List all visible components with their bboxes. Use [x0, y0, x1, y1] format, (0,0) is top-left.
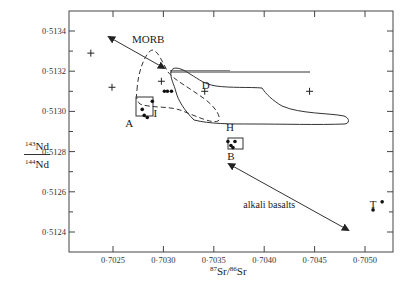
annotation-h: H — [226, 121, 234, 133]
annotation-alkali-basalts: alkali basalts — [243, 199, 295, 210]
annotation-morb: MORB — [132, 33, 164, 45]
x-tick-label: 0·7025 — [101, 255, 125, 265]
dot-marker — [151, 100, 155, 104]
y-axis-label: 143Nd 144Nd — [24, 138, 50, 171]
annotation-i: I — [154, 107, 158, 119]
y-num-superscript: 143 — [25, 140, 36, 148]
y-tick-label: 0·5126 — [42, 187, 66, 197]
x-tick-label: 0·7040 — [252, 255, 276, 265]
y-num-text: Nd — [36, 140, 49, 152]
y-tick-label: 0·5130 — [42, 106, 66, 116]
cross-marker — [108, 84, 115, 91]
x-tick-label: 0·7030 — [151, 255, 175, 265]
axis-ticks: 0·70250·70300·70350·70400·70450·70500·51… — [42, 11, 393, 265]
box-B — [228, 138, 243, 149]
dot-marker — [142, 114, 146, 118]
y-den-text: Nd — [36, 158, 49, 170]
annotation-b: B — [227, 150, 234, 162]
x-axis-label: 87Sr/86Sr — [210, 265, 247, 277]
annotation-a: A — [125, 117, 133, 129]
x-text-1: Sr/ — [217, 265, 230, 277]
annotation-t: T — [370, 198, 377, 210]
y-tick-label: 0·5134 — [42, 26, 67, 36]
x-sup-1: 87 — [210, 265, 217, 273]
y-den-superscript: 144 — [25, 158, 36, 166]
x-sup-2: 86 — [230, 265, 237, 273]
dot-marker — [233, 140, 237, 144]
alkali-basalts-arrow — [229, 164, 348, 230]
x-tick-label: 0·7035 — [202, 255, 226, 265]
box-A — [136, 97, 153, 116]
cross-marker — [87, 50, 94, 57]
solid-field — [171, 68, 349, 124]
y-tick-label: 0·5124 — [42, 227, 67, 237]
field-outlines — [136, 50, 348, 124]
annotation-d: D — [202, 79, 210, 91]
y-tick-label: 0·5132 — [42, 66, 66, 76]
data-points — [87, 50, 384, 212]
dot-marker — [166, 90, 170, 94]
dot-marker — [226, 140, 230, 144]
dot-marker — [170, 90, 174, 94]
annotations: MORBalkali basaltsDIAHBT — [125, 33, 377, 210]
cross-marker — [158, 78, 165, 85]
dot-marker — [140, 108, 144, 112]
chart-plot-area: 0·70250·70300·70350·70400·70450·70500·51… — [0, 0, 404, 287]
dot-marker — [380, 200, 384, 204]
cross-marker — [306, 88, 313, 95]
x-tick-label: 0·7045 — [303, 255, 327, 265]
x-text-2: Sr — [237, 265, 247, 277]
dot-marker — [145, 116, 149, 120]
x-tick-label: 0·7050 — [353, 255, 377, 265]
